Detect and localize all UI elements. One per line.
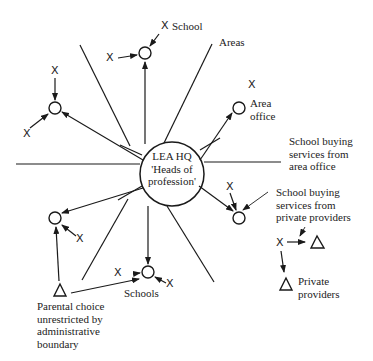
school-circle-top <box>139 47 151 59</box>
x-marker-schools-right: X <box>166 278 174 289</box>
x-marker-private: X <box>276 237 284 248</box>
hub-line-2: 'Heads of <box>140 163 204 176</box>
buying-area-office-label: School buying services from area office <box>289 135 353 173</box>
school-circle-upper-left <box>49 102 61 114</box>
schools-label: Schools <box>124 287 159 300</box>
parental-choice-triangle <box>54 284 66 296</box>
area-line-upper-left <box>80 45 130 146</box>
private-provider-triangle-right <box>311 236 324 248</box>
x-marker-top: X <box>161 20 169 31</box>
private-provider-triangle-bottom <box>280 278 292 290</box>
area-line-lower-right <box>167 206 214 282</box>
hub-line-3: profession' <box>140 175 204 188</box>
area-line-upper-right <box>164 44 212 143</box>
buying-private-label: School buying services from private prov… <box>276 186 351 224</box>
x-marker-schools-left: X <box>114 267 122 278</box>
parental-choice-label: Parental choice unrestricted by administ… <box>37 300 105 350</box>
schools-circle <box>142 266 154 278</box>
areas-label: Areas <box>219 36 245 49</box>
top-school-label: School <box>172 20 203 33</box>
x-marker-top-left: X <box>106 52 114 63</box>
hub-line-1: LEA HQ <box>140 150 204 163</box>
school-circle-lower-left <box>49 212 61 224</box>
x-marker-upper-left-top: X <box>51 65 59 76</box>
lea-hq-label: LEA HQ 'Heads of profession' <box>140 150 204 188</box>
school-circle-lower-right <box>233 212 245 224</box>
area-office-circle <box>233 102 245 114</box>
x-marker-area-office: X <box>248 79 256 90</box>
area-line-left-lower-short <box>118 186 142 200</box>
area-line-right-upper-short <box>200 138 220 150</box>
x-marker-upper-left-bottom: X <box>23 128 31 139</box>
private-providers-label: Private providers <box>298 275 340 300</box>
x-marker-lower-left: X <box>76 233 84 244</box>
x-marker-lower-right: X <box>226 181 234 192</box>
area-office-label: Area office <box>250 97 275 122</box>
